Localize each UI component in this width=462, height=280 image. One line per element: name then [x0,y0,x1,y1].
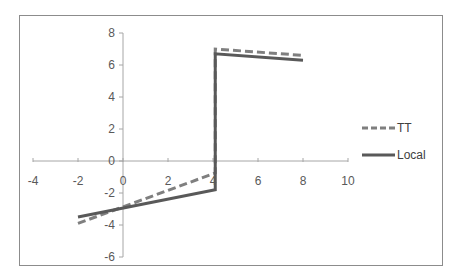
axes: -4-20246810-6-4-202468 [28,26,355,264]
line-chart: -4-20246810-6-4-202468 TT Local [0,0,462,280]
y-tick-label: -6 [104,250,115,264]
y-tick-label: 0 [108,154,115,168]
x-tick-label: 10 [341,174,355,188]
y-tick-label: -4 [104,218,115,232]
legend: TT Local [362,121,426,162]
x-tick-label: 2 [165,174,172,188]
x-tick-label: 8 [300,174,307,188]
legend-tt-label: TT [397,121,412,135]
y-tick-label: 6 [108,58,115,72]
x-tick-label: -2 [73,174,84,188]
y-tick-label: -2 [104,186,115,200]
y-tick-label: 4 [108,90,115,104]
y-tick-label: 8 [108,26,115,40]
y-tick-label: 2 [108,122,115,136]
x-tick-label: -4 [28,174,39,188]
legend-local-label: Local [397,148,426,162]
x-tick-label: 6 [255,174,262,188]
x-tick-label: 0 [120,174,127,188]
